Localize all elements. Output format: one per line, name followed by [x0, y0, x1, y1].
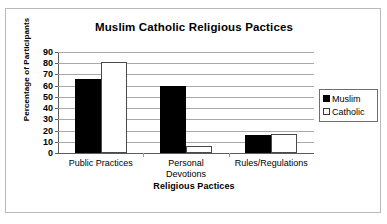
category-separator	[229, 153, 230, 157]
y-axis-line	[58, 52, 59, 153]
bar-catholic-1	[186, 146, 212, 153]
bar-catholic-2	[271, 134, 297, 153]
y-tick-mark	[55, 142, 58, 143]
y-tick-label: 50	[43, 92, 53, 102]
gridline	[58, 52, 314, 53]
category-label-1: Personal Devotions	[143, 158, 228, 180]
category-label-0: Public Practices	[58, 158, 143, 169]
category-label-2: Rules/Regulations	[229, 158, 314, 169]
plot-area: 0102030405060708090 Public PracticesPers…	[58, 52, 314, 153]
y-tick-label: 30	[43, 114, 53, 124]
y-tick-label: 60	[43, 81, 53, 91]
y-tick-mark	[55, 131, 58, 132]
legend-item-catholic[interactable]: Catholic	[323, 105, 374, 118]
chart-title: Muslim Catholic Religious Pactices	[6, 21, 382, 33]
legend-swatch-catholic-icon	[323, 108, 330, 115]
y-tick-mark	[55, 63, 58, 64]
legend-label-catholic: Catholic	[332, 107, 365, 117]
y-tick-label: 20	[43, 126, 53, 136]
y-tick-mark	[55, 86, 58, 87]
legend-item-muslim[interactable]: Muslim	[323, 92, 374, 105]
legend-label-muslim: Muslim	[332, 94, 361, 104]
y-tick-mark	[55, 97, 58, 98]
y-tick-label: 70	[43, 69, 53, 79]
y-tick-label: 10	[43, 137, 53, 147]
legend-swatch-muslim-icon	[323, 95, 330, 102]
y-tick-label: 0	[48, 148, 53, 158]
bar-muslim-1	[160, 86, 186, 153]
y-tick-label: 80	[43, 58, 53, 68]
chart-figure: Muslim Catholic Religious Pactices Perce…	[5, 8, 381, 213]
y-tick-mark	[55, 74, 58, 75]
y-tick-label: 90	[43, 47, 53, 57]
bar-muslim-0	[75, 79, 101, 153]
category-separator	[143, 153, 144, 157]
bar-catholic-0	[101, 62, 127, 153]
y-tick-mark	[55, 108, 58, 109]
y-tick-mark	[55, 52, 58, 53]
y-tick-mark	[55, 153, 58, 154]
chart-legend: Muslim Catholic	[319, 89, 378, 122]
x-axis-title: Religious Pactices	[6, 181, 382, 191]
y-tick-label: 40	[43, 103, 53, 113]
y-tick-mark	[55, 119, 58, 120]
bar-muslim-2	[245, 135, 271, 153]
gridline	[58, 63, 314, 64]
y-axis-title: Percentage of Participants	[22, 10, 31, 130]
gridline	[58, 74, 314, 75]
x-axis-line	[58, 153, 314, 154]
